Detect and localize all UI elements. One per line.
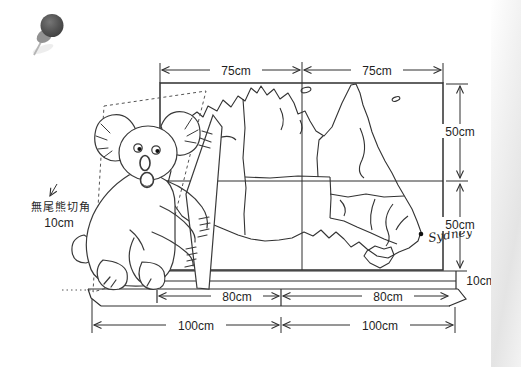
state-borders — [243, 99, 404, 244]
dim-shelf-right: 80cm — [373, 290, 402, 304]
dim-top-right: 75cm — [362, 64, 391, 78]
koala-nose — [140, 156, 150, 171]
page-curl-shading — [491, 0, 521, 367]
koala-note-value: 10cm — [44, 216, 73, 230]
pushpin-icon — [31, 14, 63, 56]
map-river-details — [210, 108, 408, 246]
dim-right-upper: 50cm — [445, 125, 474, 139]
koala-note-text: 無尾熊切角 — [31, 200, 91, 214]
koala-cut-note: 無尾熊切角 10cm — [31, 184, 91, 230]
dim-right-lower: 50cm — [445, 218, 474, 232]
dim-base-left: 100cm — [178, 319, 214, 333]
paper-page: Sydney — [0, 0, 521, 367]
sydney-dot — [419, 232, 424, 237]
dim-shelf-left: 80cm — [222, 290, 251, 304]
koala-figure — [72, 112, 222, 290]
diagram-canvas: Sydney — [0, 0, 521, 367]
dim-base-right: 100cm — [362, 319, 398, 333]
koala-mouth — [141, 173, 154, 188]
cape-york-island — [392, 96, 401, 102]
dim-top-left: 75cm — [221, 64, 250, 78]
